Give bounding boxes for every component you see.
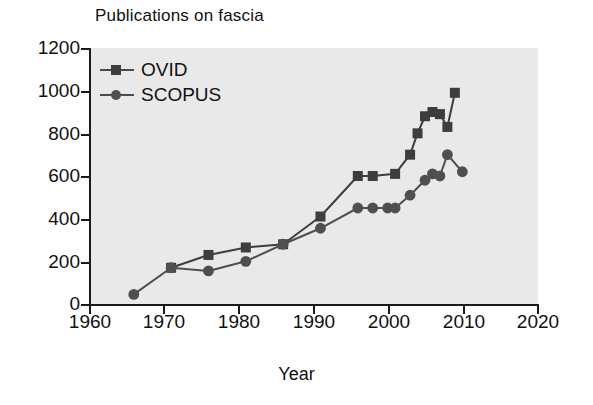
y-tick-200 [81,262,90,264]
y-tick-label-1000: 1000 [20,81,80,100]
x-tick-label-2010: 2010 [429,311,499,333]
y-tick-600 [81,176,90,178]
chart-figure: Publications on fascia 1200 1000 800 600… [0,0,593,405]
x-tick-label-2020: 2020 [503,311,573,333]
legend-label-ovid: OVID [141,60,187,79]
y-tick-400 [81,219,90,221]
x-axis-label: Year [0,364,593,385]
y-tick-800 [81,134,90,136]
x-tick-label-1980: 1980 [204,311,274,333]
y-tick-1000 [81,91,90,93]
y-tick-label-800: 800 [20,124,80,143]
x-tick-label-1960: 1960 [55,311,125,333]
y-tick-label-600: 600 [20,166,80,185]
x-tick-label-1990: 1990 [279,311,349,333]
chart-title: Publications on fascia [95,6,264,26]
legend-label-scopus: SCOPUS [141,85,221,104]
y-tick-label-1200: 1200 [20,38,80,57]
legend-marker-square-icon [100,62,134,78]
y-tick-label-400: 400 [20,209,80,228]
x-tick-label-2000: 2000 [354,311,424,333]
chart-legend: OVID SCOPUS [100,57,280,107]
x-tick-label-1970: 1970 [129,311,199,333]
legend-item-ovid: OVID [100,57,280,82]
legend-marker-circle-icon [100,87,134,103]
legend-item-scopus: SCOPUS [100,82,280,107]
y-tick-label-200: 200 [20,252,80,271]
y-tick-1200 [81,48,90,50]
